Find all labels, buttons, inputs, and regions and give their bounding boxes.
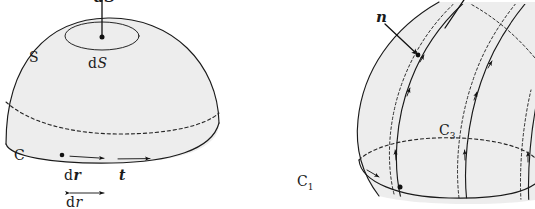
label-vector-dr-symbol: r [73,167,82,183]
dome-surface-svg: dS S dS C dr [0,0,268,209]
label-curve-c3-prefix: C [439,122,450,138]
svg-text:C1: C1 [297,173,313,192]
label-vector-dr: dr [64,167,82,183]
label-surface-s: S [29,49,39,65]
label-curve-c: C [14,147,25,163]
surface-element-center-dot [100,35,105,40]
dome-surface-panel: dS S dS C dr [0,0,268,209]
svg-text:dr: dr [64,167,82,183]
svg-text:dS: dS [88,55,107,71]
label-element-ds: dS [88,55,107,71]
label-normal-n: n [376,8,387,26]
label-element-ds-prefix: d [88,55,97,71]
label-vector-dr-prefix: d [64,167,73,183]
label-scalar-dr-symbol: r [75,194,83,209]
label-vector-ds: dS [94,0,115,6]
label-tangent-t: t [119,167,126,183]
label-element-ds-symbol: S [97,55,107,71]
svg-text:dr: dr [66,194,83,209]
oriented-tube-svg: n [267,0,535,209]
label-scalar-dr: dr [66,194,83,209]
oriented-tube-panel: n [267,0,535,209]
label-curve-c3-subscript: 3 [450,131,456,141]
label-curve-c1-subscript: 1 [308,182,314,192]
tube-body [357,2,535,204]
label-scalar-dr-prefix: d [66,194,75,209]
label-curve-c1: C1 [297,173,313,192]
label-curve-c1-prefix: C [297,173,308,189]
dome-body [6,18,219,163]
figure-root: dS S dS C dr [0,0,535,209]
